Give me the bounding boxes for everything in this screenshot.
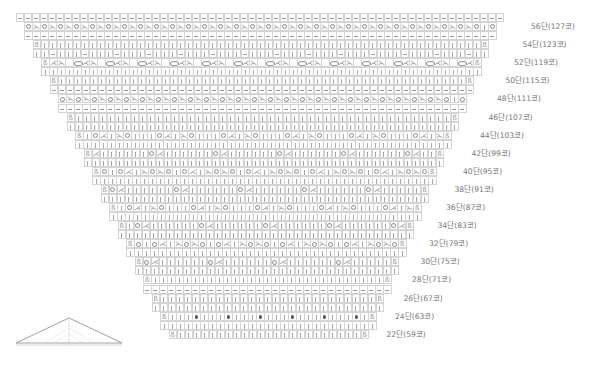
- chart-row: [93, 176, 437, 185]
- row-label: 54단(123코): [523, 40, 567, 49]
- row-label: 42단(99코): [472, 149, 511, 158]
- edge-stitch-icon: ß: [428, 167, 437, 176]
- knit-stitch-icon: [376, 303, 385, 312]
- chart-row: [50, 85, 474, 94]
- yo-stitch-icon: [488, 22, 497, 31]
- row-label: 28단(71코): [412, 275, 451, 284]
- chart-row: ⋋⋋⋋⋋⋋⋋⋋⋋⋋⋋⋋⋋⋋⋋⋋⋋⋋⋋⋋⋋⋋⋋⋋⋋: [59, 94, 467, 103]
- knitting-chart: ⋋⋋⋋⋋⋋⋋⋋⋋⋋⋋⋋⋋⋋⋋⋋⋋⋋⋋⋋⋋⋋⋋⋋⋋⋋⋋⋋⋋56단(127코)ßß5…: [0, 0, 608, 366]
- knit-stitch-icon: [368, 321, 377, 330]
- edge-stitch-icon: ß: [421, 185, 430, 194]
- edge-stitch-icon: ß: [376, 294, 385, 303]
- edge-stitch-icon: ß: [436, 149, 445, 158]
- chart-row: ß⋌⋋⋋⋌⋋⋋⋌⋋⋋⋌⋋⋋ß: [127, 239, 407, 248]
- chart-row: [152, 303, 384, 312]
- row-label: 32단(79코): [429, 239, 468, 248]
- edge-stitch-icon: ß: [473, 58, 482, 67]
- dash-stitch-icon: [496, 13, 505, 22]
- chart-row: ß⋌⋌⋌⋌ß: [135, 257, 399, 266]
- knit-stitch-icon: [428, 176, 437, 185]
- chart-row: ßß: [50, 76, 474, 85]
- chart-row: ßß: [161, 312, 377, 321]
- knit-stitch-icon: [481, 49, 490, 58]
- edge-stitch-icon: ß: [398, 239, 407, 248]
- chart-row: ß⋌⋌⋌⋌⋌ß: [101, 185, 429, 194]
- row-label: 38단(91코): [455, 185, 494, 194]
- row-label: 48단(111코): [497, 94, 541, 103]
- chart-row: [161, 321, 377, 330]
- chart-row: [16, 13, 504, 22]
- knit-stitch-icon: [421, 194, 430, 203]
- dash-stitch-icon: [466, 85, 475, 94]
- edge-stitch-icon: ß: [466, 76, 475, 85]
- knit-stitch-icon: [473, 67, 482, 76]
- chart-row: [59, 104, 467, 113]
- chart-row: [110, 212, 422, 221]
- chart-row: ßß: [144, 275, 392, 284]
- chart-row: ßß: [152, 294, 384, 303]
- chart-row: [118, 230, 414, 239]
- chart-row: ßß: [169, 330, 369, 339]
- yo-stitch-icon: [458, 94, 467, 103]
- edge-stitch-icon: ß: [481, 40, 490, 49]
- knit-stitch-icon: [436, 158, 445, 167]
- edge-stitch-icon: ß: [413, 203, 422, 212]
- chart-row: ß⋌⋌⋌⋌⋌⋌ß: [84, 149, 444, 158]
- chart-row: ß⋌⋋⋌⋋⋌⋋⋌⋋⋌⋋⋌⋋⋌⋋⋌⋋⋌⋋⋌⋋⋌⋋⋌⋋⋌⋋⋌ß: [42, 58, 482, 67]
- edge-stitch-icon: ß: [383, 275, 392, 284]
- edge-stitch-icon: ß: [406, 221, 415, 230]
- chart-row: [84, 158, 444, 167]
- chart-row: ß⋌⋋⋌⋋⋌⋋⋌⋋⋌⋋ß: [110, 203, 422, 212]
- row-label: 52단(119코): [514, 58, 558, 67]
- chart-row: [144, 285, 392, 294]
- chart-row: [42, 67, 482, 76]
- dash-stitch-icon: [488, 31, 497, 40]
- chart-row: [76, 140, 452, 149]
- edge-stitch-icon: ß: [391, 257, 400, 266]
- dash-stitch-icon: [458, 104, 467, 113]
- knit-stitch-icon: [406, 230, 415, 239]
- knit-stitch-icon: [451, 122, 460, 131]
- knit-stitch-icon: [443, 140, 452, 149]
- edge-stitch-icon: ß: [361, 330, 370, 339]
- row-label: 44단(103코): [480, 131, 524, 140]
- chart-row: [33, 49, 489, 58]
- knit-stitch-icon: [398, 248, 407, 257]
- chart-row: ßß: [33, 40, 489, 49]
- dash-stitch-icon: [383, 285, 392, 294]
- edge-stitch-icon: ß: [451, 113, 460, 122]
- chart-row: [67, 122, 459, 131]
- row-label: 34단(83코): [438, 221, 477, 230]
- row-label: 22단(59코): [387, 330, 426, 339]
- chart-row: [25, 31, 497, 40]
- edge-stitch-icon: ß: [368, 312, 377, 321]
- row-label: 30단(75코): [421, 257, 460, 266]
- chart-row: [127, 248, 407, 257]
- chart-row: ⋋⋋⋋⋋⋋⋋⋋⋋⋋⋋⋋⋋⋋⋋⋋⋋⋋⋋⋋⋋⋋⋋⋋⋋⋋⋋⋋⋋: [25, 22, 497, 31]
- chart-row: [135, 266, 399, 275]
- row-label: 50단(115코): [506, 76, 550, 85]
- row-label: 36단(87코): [446, 203, 485, 212]
- row-label: 56단(127코): [531, 22, 575, 31]
- edge-stitch-icon: ß: [443, 131, 452, 140]
- chart-row: [101, 194, 429, 203]
- row-label: 40단(95코): [463, 167, 502, 176]
- row-label: 26단(67코): [404, 294, 443, 303]
- knit-stitch-icon: [413, 212, 422, 221]
- chart-row: ßß: [67, 113, 459, 122]
- chart-row: ß⋌⋋⋌⋋⋌⋋⋌⋋⋌⋋⋌⋋ß: [76, 131, 452, 140]
- triangle-shawl-schematic: [14, 316, 144, 352]
- row-label: 24단(63코): [395, 312, 434, 321]
- chart-row: ß⋌⋋⋋⋌⋋⋋⋌⋋⋋⋌⋋⋋⋌⋋⋋ß: [93, 167, 437, 176]
- row-label: 46단(107코): [489, 113, 533, 122]
- knit-stitch-icon: [391, 266, 400, 275]
- chart-row: ß⋌⋌⋌⋌⋌ß: [118, 221, 414, 230]
